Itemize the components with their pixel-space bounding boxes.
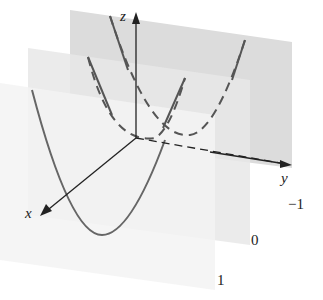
- x-axis-label: x: [25, 205, 32, 222]
- diagram: z y x −1 0 1: [0, 0, 323, 300]
- plane-front: [0, 83, 215, 290]
- z-axis-label: z: [120, 8, 126, 25]
- plane-label-neg1: −1: [288, 196, 304, 213]
- diagram-canvas: [0, 0, 323, 300]
- plane-label-0: 0: [251, 232, 259, 249]
- y-axis-label: y: [281, 170, 288, 187]
- plane-label-1: 1: [217, 272, 225, 289]
